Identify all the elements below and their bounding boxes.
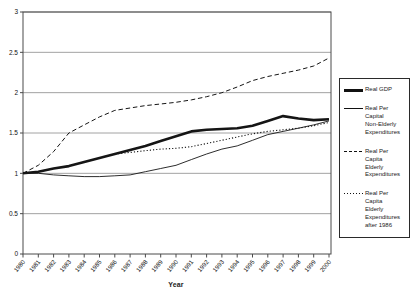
y-tick-label: 2.5 xyxy=(9,49,18,56)
x-tick-label: 1992 xyxy=(196,258,211,273)
y-tick-label: 1.5 xyxy=(9,129,18,136)
y-tick-label: 3 xyxy=(14,8,18,15)
x-tick-label: 1994 xyxy=(226,258,241,273)
legend-item-label: Real Per Capita Elderly Expenditures aft… xyxy=(365,190,406,230)
y-tick-label: 0 xyxy=(14,250,18,257)
y-tick-label: 0.5 xyxy=(9,210,18,217)
legend-item-elderly-expenditures-after-1986: Real Per Capita Elderly Expenditures aft… xyxy=(344,190,406,230)
x-tick-label: 1996 xyxy=(257,258,272,273)
legend-line-sample-thin-solid-icon xyxy=(344,108,363,109)
chart-figure: 00.511.522.53198019811982198319841985198… xyxy=(0,0,420,297)
x-tick-label: 1991 xyxy=(180,258,195,273)
x-tick-label: 1980 xyxy=(12,258,27,273)
x-tick-label: 1988 xyxy=(134,258,149,273)
x-tick-label: 1986 xyxy=(104,258,119,273)
series-line-thick-solid xyxy=(23,116,329,173)
x-tick-label: 1981 xyxy=(27,258,42,273)
x-tick-label: 1985 xyxy=(89,258,104,273)
x-tick-label: 1990 xyxy=(165,258,180,273)
legend-item-real-gdp: Real GDP xyxy=(344,86,406,94)
x-tick-label: 1984 xyxy=(73,258,88,273)
x-tick-label: 1987 xyxy=(119,258,134,273)
x-tick-label: 1999 xyxy=(303,258,318,273)
y-tick-label: 1 xyxy=(14,170,18,177)
legend-item-elderly-expenditures: Real Per Capita Elderly Expenditures xyxy=(344,148,406,180)
x-tick-label: 1983 xyxy=(58,258,73,273)
legend-item-label: Real Per Capital Non-Elderly Expenditure… xyxy=(365,105,406,137)
legend-line-sample-dotted-icon xyxy=(344,193,363,194)
x-tick-label: 1997 xyxy=(272,258,287,273)
legend-item-non-elderly-expenditures: Real Per Capital Non-Elderly Expenditure… xyxy=(344,105,406,137)
x-tick-label: 1995 xyxy=(242,258,257,273)
legend-line-sample-thick-solid-icon xyxy=(344,89,363,92)
legend-item-label: Real GDP xyxy=(365,86,392,94)
x-tick-label: 1982 xyxy=(43,258,58,273)
x-tick-label: 2000 xyxy=(318,258,333,273)
x-axis-title: Year xyxy=(23,281,329,288)
y-tick-label: 2 xyxy=(14,89,18,96)
legend-item-label: Real Per Capita Elderly Expenditures xyxy=(365,148,406,180)
legend-box: Real GDP Real Per Capital Non-Elderly Ex… xyxy=(339,78,410,238)
x-tick-label: 1989 xyxy=(150,258,165,273)
x-tick-label: 1998 xyxy=(287,258,302,273)
x-tick-label: 1993 xyxy=(211,258,226,273)
legend-line-sample-dashed-icon xyxy=(344,151,363,152)
